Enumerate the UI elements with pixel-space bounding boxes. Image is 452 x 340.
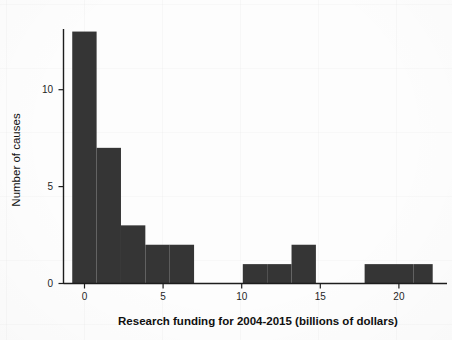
y-axis-ticks: 0510 (42, 84, 64, 289)
histogram-bar (121, 225, 145, 283)
histogram-bar (292, 245, 316, 284)
histogram-bar (267, 264, 291, 283)
bars-group (72, 32, 432, 284)
histogram-bar (365, 264, 389, 283)
y-tick-label: 0 (47, 278, 53, 289)
histogram-bar (170, 245, 194, 284)
histogram-bar (389, 264, 413, 283)
x-tick-label: 5 (160, 291, 166, 302)
chart-canvas: 0510 05101520 Number of causes Research … (0, 0, 452, 340)
histogram-plot: 0510 05101520 Number of causes Research … (0, 0, 452, 340)
x-tick-label: 10 (236, 291, 248, 302)
histogram-bar (243, 264, 267, 283)
histogram-bar (413, 264, 432, 283)
y-tick-label: 10 (42, 84, 54, 95)
x-tick-label: 20 (393, 291, 405, 302)
histogram-bar (97, 148, 121, 284)
y-tick-label: 5 (47, 181, 53, 192)
histogram-bar (145, 245, 169, 284)
x-axis-title: Research funding for 2004-2015 (billions… (118, 315, 398, 327)
y-axis-title: Number of causes (10, 113, 22, 207)
x-axis-ticks: 05101520 (82, 284, 405, 303)
histogram-bar (72, 32, 96, 284)
x-tick-label: 0 (82, 291, 88, 302)
x-tick-label: 15 (315, 291, 327, 302)
